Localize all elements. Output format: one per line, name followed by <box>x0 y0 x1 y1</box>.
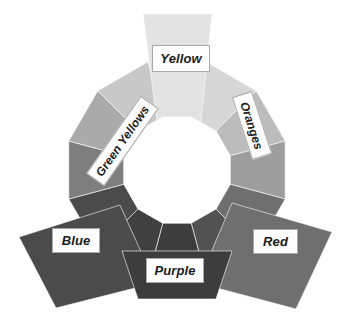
label-yellow-text: Yellow <box>160 52 201 65</box>
label-blue: Blue <box>52 228 100 253</box>
label-blue-text: Blue <box>62 234 91 247</box>
color-wheel-figure: Yellow Green Yellows Oranges Blue Red Pu… <box>0 0 354 319</box>
label-purple: Purple <box>146 258 204 283</box>
label-yellow: Yellow <box>152 45 210 72</box>
label-red-text: Red <box>263 235 288 248</box>
label-purple-text: Purple <box>154 264 195 277</box>
label-red: Red <box>253 229 298 254</box>
